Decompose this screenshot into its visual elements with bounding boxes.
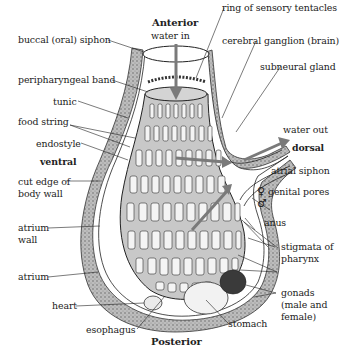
- label-atrium-wall-1: atrium: [18, 222, 49, 233]
- label-gonads-1: gonads: [281, 287, 315, 298]
- label-anus: anus: [264, 217, 286, 228]
- ventral-label: ventral: [40, 156, 76, 167]
- label-esophagus: esophagus: [86, 324, 136, 335]
- label-stigmata-1: stigmata of: [281, 241, 333, 252]
- label-buccal-siphon: buccal (oral) siphon: [18, 34, 111, 45]
- label-gonads-2: (male and: [281, 299, 327, 310]
- male-symbol: ♂: [257, 198, 267, 209]
- label-atrium-wall-2: wall: [18, 234, 37, 245]
- label-peripharyngeal-band: peripharyngeal band: [18, 74, 115, 85]
- label-atrial-siphon: atrial siphon: [271, 165, 330, 176]
- dorsal-label: dorsal: [292, 142, 324, 153]
- label-gonads-3: female): [281, 311, 316, 322]
- posterior-label: Posterior: [151, 336, 202, 347]
- label-cut-edge-1: cut edge of: [18, 176, 70, 187]
- tunicate-diagram: Anterior Posterior ventral dorsal water …: [0, 0, 346, 353]
- water-in-label: water in: [151, 30, 190, 41]
- water-out-label: water out: [283, 124, 328, 135]
- label-stomach: stomach: [228, 318, 267, 329]
- label-cerebral-ganglion: cerebral ganglion (brain): [222, 35, 339, 46]
- label-sensory-tentacles: ring of sensory tentacles: [222, 2, 337, 13]
- label-tunic: tunic: [53, 96, 77, 107]
- label-endostyle: endostyle: [36, 138, 81, 149]
- label-subneural-gland: subneural gland: [260, 61, 336, 72]
- female-symbol: ♀: [257, 186, 265, 197]
- label-stigmata-2: pharynx: [281, 253, 319, 264]
- label-heart: heart: [52, 300, 77, 311]
- anterior-label: Anterior: [152, 17, 198, 28]
- label-food-string: food string: [18, 116, 69, 127]
- label-atrium: atrium: [18, 271, 49, 282]
- label-genital-pores: genital pores: [268, 186, 329, 197]
- label-cut-edge-2: body wall: [18, 188, 63, 199]
- gonads: [220, 270, 246, 294]
